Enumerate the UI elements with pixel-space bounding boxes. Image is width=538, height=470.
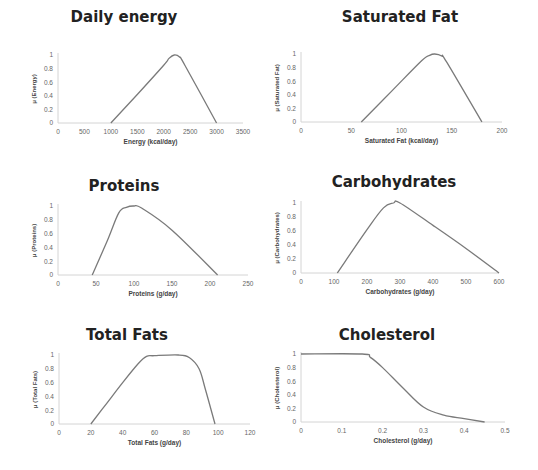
charts-svg: 00.20.40.60.8105001000150020002500300035… [0, 0, 538, 470]
x-tick-label: 120 [245, 429, 256, 436]
y-tick-label: 0.6 [45, 379, 54, 386]
y-tick-label: 0.8 [45, 365, 54, 372]
y-tick-label: 0.6 [287, 378, 296, 385]
y-tick-label: 0.6 [44, 230, 53, 237]
y-tick-label: 0 [292, 418, 296, 425]
chart-title: Cholesterol [339, 326, 435, 344]
y-tick-label: 0.4 [45, 393, 54, 400]
x-tick-label: 250 [243, 280, 254, 287]
y-axis-title: μ (Total Fats) [32, 371, 38, 408]
membership-curve [301, 354, 485, 422]
x-tick-label: 0 [56, 128, 60, 135]
y-axis-title: μ (Carbohydrates) [274, 212, 280, 264]
x-tick-label: 0.2 [378, 427, 387, 434]
chart-title: Proteins [89, 177, 160, 195]
x-tick-label: 0.3 [419, 427, 428, 434]
membership-curve [92, 205, 217, 275]
x-tick-label: 200 [497, 127, 508, 134]
x-tick-label: 500 [461, 278, 472, 285]
x-tick-label: 50 [92, 280, 100, 287]
chart-energy: 00.20.40.60.8105001000150020002500300035… [31, 51, 251, 146]
x-tick-label: 60 [151, 429, 159, 436]
y-tick-label: 0.8 [287, 213, 296, 220]
chart-title: Carbohydrates [332, 173, 457, 191]
x-tick-label: 50 [348, 127, 356, 134]
y-tick-label: 0.2 [287, 405, 296, 412]
x-tick-label: 0.4 [460, 427, 469, 434]
x-tick-label: 0.1 [337, 427, 346, 434]
x-tick-label: 100 [213, 429, 224, 436]
x-tick-label: 150 [167, 280, 178, 287]
x-tick-label: 100 [396, 127, 407, 134]
chart-proteins: 00.20.40.60.81050100150200250Proteins (g… [31, 202, 254, 298]
y-axis-title: μ (Cholesterol) [274, 367, 280, 409]
y-tick-label: 0.2 [45, 407, 54, 414]
y-tick-label: 0 [49, 271, 53, 278]
y-tick-label: 0.8 [287, 364, 296, 371]
y-tick-label: 0.4 [287, 91, 296, 98]
membership-curve [111, 55, 217, 123]
y-tick-label: 1 [292, 350, 296, 357]
y-tick-label: 0.2 [287, 255, 296, 262]
x-tick-label: 300 [395, 278, 406, 285]
x-tick-label: 0 [56, 280, 60, 287]
x-axis-title: Total Fats (g/day) [128, 439, 181, 447]
y-tick-label: 1 [49, 51, 53, 58]
y-tick-label: 0.4 [287, 391, 296, 398]
y-tick-label: 1 [49, 202, 53, 209]
y-tick-label: 0.2 [287, 105, 296, 112]
y-tick-label: 0 [292, 118, 296, 125]
y-tick-label: 0.4 [44, 92, 53, 99]
y-tick-label: 0.4 [44, 244, 53, 251]
x-tick-label: 1500 [130, 128, 145, 135]
y-tick-label: 0.6 [44, 79, 53, 86]
chart-cholesterol: 00.20.40.60.8100.10.20.30.40.5Cholestero… [274, 350, 510, 445]
y-axis-title: μ (Saturated Fat) [274, 64, 280, 112]
x-axis-title: Cholesterol (g/day) [374, 437, 433, 445]
x-axis-title: Saturated Fat (kcal/day) [365, 137, 438, 145]
x-tick-label: 2000 [156, 128, 171, 135]
y-tick-label: 0.8 [287, 64, 296, 71]
y-tick-label: 0 [49, 119, 53, 126]
x-tick-label: 3500 [236, 128, 251, 135]
y-tick-label: 0.4 [287, 241, 296, 248]
chart-title: Daily energy [71, 8, 178, 26]
x-tick-label: 200 [362, 278, 373, 285]
x-axis-title: Proteins (g/day) [128, 290, 177, 298]
y-axis-title: μ (Proteins) [31, 224, 37, 257]
y-tick-label: 0 [50, 420, 54, 427]
x-tick-label: 0 [299, 278, 303, 285]
y-tick-label: 1 [50, 351, 54, 358]
y-tick-label: 0.6 [287, 227, 296, 234]
y-tick-label: 0.6 [287, 78, 296, 85]
x-tick-label: 0.5 [500, 427, 509, 434]
y-tick-label: 1 [292, 50, 296, 57]
y-tick-label: 0.8 [44, 216, 53, 223]
x-axis-title: Energy (kcal/day) [124, 138, 178, 146]
x-tick-label: 0 [299, 427, 303, 434]
chart-title: Total Fats [86, 326, 168, 344]
x-tick-label: 80 [183, 429, 191, 436]
y-tick-label: 0.8 [44, 65, 53, 72]
x-tick-label: 100 [129, 280, 140, 287]
x-tick-label: 0 [299, 127, 303, 134]
y-tick-label: 0 [292, 269, 296, 276]
y-tick-label: 0.2 [44, 258, 53, 265]
membership-curve [337, 201, 499, 273]
x-tick-label: 1000 [104, 128, 119, 135]
y-axis-title: μ (Energy) [31, 74, 37, 104]
x-tick-label: 600 [494, 278, 505, 285]
x-axis-title: Carbohydrates (g/day) [366, 288, 435, 296]
y-tick-label: 0.2 [44, 106, 53, 113]
x-tick-label: 100 [329, 278, 340, 285]
chart-saturated-fat: 00.20.40.60.81050100150200Saturated Fat … [274, 50, 508, 145]
x-tick-label: 500 [79, 128, 90, 135]
x-tick-label: 0 [57, 429, 61, 436]
membership-curve [91, 355, 215, 424]
x-tick-label: 20 [87, 429, 95, 436]
chart-title: Saturated Fat [342, 8, 458, 26]
x-tick-label: 3000 [209, 128, 224, 135]
x-tick-label: 400 [428, 278, 439, 285]
x-tick-label: 40 [119, 429, 127, 436]
x-tick-label: 200 [205, 280, 216, 287]
